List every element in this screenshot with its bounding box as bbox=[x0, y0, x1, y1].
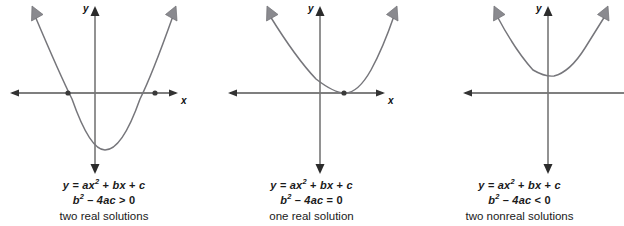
root-point-right bbox=[152, 90, 157, 95]
quadratic-discriminant-figure: x y y = ax2 + bx + c b2 – 4ac > 0 two re… bbox=[0, 0, 624, 226]
disc-relation: < bbox=[535, 194, 542, 206]
root-point-left bbox=[65, 90, 70, 95]
eq-plus-1: + bbox=[103, 179, 110, 191]
parabola-curve bbox=[267, 6, 399, 93]
disc-relation: = bbox=[327, 194, 334, 206]
disc-zero: 0 bbox=[129, 194, 135, 206]
root-points bbox=[341, 90, 346, 95]
eq-c: c bbox=[554, 179, 560, 191]
x-axis bbox=[463, 90, 624, 97]
eq-y: y bbox=[270, 179, 276, 191]
y-axis-label: y bbox=[83, 3, 89, 14]
disc-exponent: 2 bbox=[495, 192, 499, 201]
x-axis-label: x bbox=[388, 95, 394, 106]
eq-exponent: 2 bbox=[95, 177, 99, 186]
eq-plus-2: + bbox=[129, 179, 136, 191]
eq-plus-2: + bbox=[336, 179, 343, 191]
disc-minus: – bbox=[295, 194, 301, 206]
solutions-description: two real solutions bbox=[0, 208, 208, 224]
parabola-curve bbox=[494, 6, 610, 76]
eq-x-2: x bbox=[535, 179, 541, 191]
caption-discriminant-negative: y = ax2 + bx + c b2 – 4ac < 0 two nonrea… bbox=[415, 178, 624, 224]
disc-4ac: 4ac bbox=[97, 194, 116, 206]
disc-b: b bbox=[73, 194, 80, 206]
equation-line: y = ax2 + bx + c bbox=[208, 178, 415, 193]
y-axis bbox=[91, 6, 100, 174]
disc-minus: – bbox=[503, 194, 509, 206]
equation-line: y = ax2 + bx + c bbox=[415, 178, 624, 193]
eq-c: c bbox=[139, 179, 145, 191]
discriminant-line: b2 – 4ac = 0 bbox=[208, 193, 415, 208]
eq-exponent: 2 bbox=[302, 177, 306, 186]
eq-c: c bbox=[346, 179, 352, 191]
graph-discriminant-negative bbox=[415, 0, 624, 180]
parabola-curve bbox=[32, 6, 178, 150]
disc-relation: > bbox=[119, 194, 126, 206]
eq-x-2: x bbox=[327, 179, 333, 191]
discriminant-line: b2 – 4ac < 0 bbox=[415, 193, 624, 208]
eq-x-2: x bbox=[119, 179, 125, 191]
graph-discriminant-positive bbox=[0, 0, 208, 180]
x-axis-label: x bbox=[181, 95, 187, 106]
eq-plus-1: + bbox=[310, 179, 317, 191]
eq-exponent: 2 bbox=[510, 177, 514, 186]
disc-4ac: 4ac bbox=[512, 194, 531, 206]
eq-equals: = bbox=[280, 179, 287, 191]
disc-minus: – bbox=[87, 194, 93, 206]
solutions-description: two nonreal solutions bbox=[415, 208, 624, 224]
eq-equals: = bbox=[72, 179, 79, 191]
solutions-description: one real solution bbox=[208, 208, 415, 224]
graph-discriminant-zero bbox=[208, 0, 415, 180]
y-axis bbox=[544, 6, 553, 174]
eq-equals: = bbox=[488, 179, 495, 191]
y-axis bbox=[316, 6, 325, 174]
caption-discriminant-positive: y = ax2 + bx + c b2 – 4ac > 0 two real s… bbox=[0, 178, 208, 224]
y-axis-label: y bbox=[536, 3, 542, 14]
disc-zero: 0 bbox=[336, 194, 342, 206]
eq-y: y bbox=[63, 179, 69, 191]
x-axis bbox=[228, 90, 385, 97]
panel-discriminant-negative: y y = ax2 + bx + c b2 – 4ac < 0 two nonr… bbox=[415, 0, 624, 226]
eq-plus-2: + bbox=[544, 179, 551, 191]
y-axis-label: y bbox=[308, 3, 314, 14]
disc-4ac: 4ac bbox=[304, 194, 323, 206]
eq-y: y bbox=[478, 179, 484, 191]
eq-b: b bbox=[320, 179, 327, 191]
caption-discriminant-zero: y = ax2 + bx + c b2 – 4ac = 0 one real s… bbox=[208, 178, 415, 224]
disc-zero: 0 bbox=[544, 194, 550, 206]
disc-exponent: 2 bbox=[80, 192, 84, 201]
discriminant-line: b2 – 4ac > 0 bbox=[0, 193, 208, 208]
panel-discriminant-zero: x y y = ax2 + bx + c b2 – 4ac = 0 one re… bbox=[208, 0, 415, 226]
equation-line: y = ax2 + bx + c bbox=[0, 178, 208, 193]
eq-plus-1: + bbox=[518, 179, 525, 191]
disc-exponent: 2 bbox=[287, 192, 291, 201]
eq-b: b bbox=[528, 179, 535, 191]
root-point-tangent bbox=[341, 90, 346, 95]
panel-discriminant-positive: x y y = ax2 + bx + c b2 – 4ac > 0 two re… bbox=[0, 0, 208, 226]
